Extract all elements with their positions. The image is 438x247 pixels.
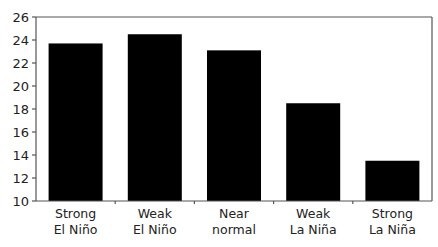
bar	[286, 103, 340, 201]
bar	[207, 50, 261, 201]
y-tick-label: 14	[12, 148, 29, 163]
y-tick-label: 10	[12, 194, 29, 209]
y-axis: 101214161820222426	[12, 10, 36, 209]
x-category-label: Weak	[138, 206, 173, 221]
bars	[49, 34, 420, 201]
x-category-label: Weak	[296, 206, 331, 221]
y-tick-label: 18	[12, 102, 29, 117]
x-category-label: La Niña	[369, 222, 416, 237]
bar-chart: 101214161820222426 StrongEl NiñoWeakEl N…	[0, 0, 438, 247]
x-axis: StrongEl NiñoWeakEl NiñoNearnormalWeakLa…	[36, 201, 432, 237]
x-category-label: El Niño	[133, 222, 177, 237]
x-category-label: El Niño	[54, 222, 98, 237]
y-tick-label: 22	[12, 56, 29, 71]
x-category-label: normal	[212, 222, 256, 237]
y-tick-label: 12	[12, 171, 29, 186]
x-category-label: La Niña	[290, 222, 337, 237]
bar	[128, 34, 182, 201]
y-tick-label: 20	[12, 79, 29, 94]
x-category-label: Near	[219, 206, 250, 221]
bar	[49, 43, 103, 201]
y-tick-label: 26	[12, 10, 29, 25]
y-tick-label: 16	[12, 125, 29, 140]
x-category-label: Strong	[55, 206, 96, 221]
y-tick-label: 24	[12, 33, 29, 48]
x-category-label: Strong	[372, 206, 413, 221]
bar	[365, 161, 419, 201]
